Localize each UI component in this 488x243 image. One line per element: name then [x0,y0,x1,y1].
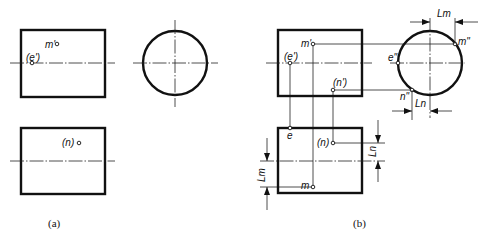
side-view-a [133,20,218,107]
label-ln: Ln [415,98,427,109]
panel-a: (e') m' (n) (a) [10,20,218,230]
caption-b: (b) [353,217,366,230]
projection-diagram: (e') m' (n) (a) [0,0,488,243]
point-m-prime [311,42,315,46]
front-view-b: (e') m' (n') [266,30,372,96]
caption-a: (a) [48,217,61,230]
dimension-ln-top: Ln [367,120,378,182]
top-view-b: e (n) m Ln Lm [256,120,385,210]
side-view-b: m" e" n" Lm Ln [388,8,478,120]
label-lm: Lm [437,8,451,19]
panel-b: (e') m' (n') m" e" n" Lm [256,8,478,230]
point-m [311,185,315,189]
label-m-double-prime: m" [458,36,470,47]
point-n-prime [331,88,335,92]
front-view-a: (e') m' [10,30,115,97]
point-m-prime [55,42,59,46]
label-e-double-prime: e" [388,52,398,63]
label-n-double-prime: n" [400,91,410,102]
projection-lines [260,44,455,187]
point-n [77,141,81,145]
label-n: (n) [317,137,329,148]
label-e-prime: (e') [26,52,40,63]
dimension-lm-top: Lm [256,138,267,210]
point-n [331,141,335,145]
label-m: m [301,180,309,191]
top-view-a: (n) [10,128,115,194]
label-n: (n) [62,137,74,148]
label-e: e [287,130,293,141]
label-m-prime: m' [45,39,56,50]
label-e-prime: (e') [284,51,298,62]
label-lm: Lm [256,168,267,182]
label-ln: Ln [367,145,378,157]
label-m-prime: m' [301,38,312,49]
label-n-prime: (n') [333,77,347,88]
